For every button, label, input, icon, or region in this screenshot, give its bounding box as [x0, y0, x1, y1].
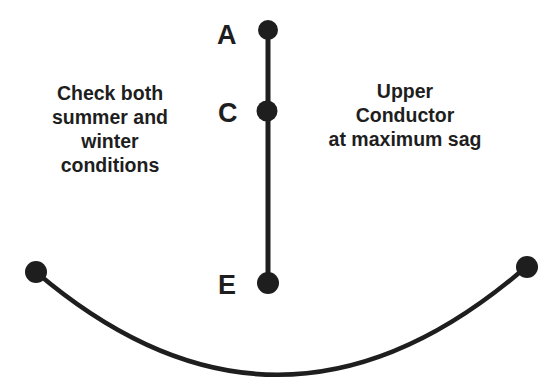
point-e-label: E: [218, 272, 236, 299]
left-note-line: Check both: [20, 81, 200, 105]
diagram-canvas: [0, 0, 558, 389]
right-note-line: Conductor: [300, 103, 510, 127]
point-c-dot: [257, 101, 278, 122]
left-note-line: winter: [20, 129, 200, 153]
point-a-dot: [258, 20, 278, 40]
left-note-line: summer and: [20, 105, 200, 129]
right-support-dot: [516, 256, 538, 278]
left-note-line: conditions: [20, 153, 200, 177]
point-a-label: A: [217, 22, 237, 49]
left-note: Check both summer and winter conditions: [20, 81, 200, 177]
right-note-line: at maximum sag: [300, 127, 510, 151]
right-note-line: Upper: [300, 79, 510, 103]
point-c-label: C: [218, 100, 238, 127]
right-note: Upper Conductor at maximum sag: [300, 79, 510, 151]
point-e-dot: [257, 272, 279, 294]
left-support-dot: [25, 261, 47, 283]
sagging-conductor-curve: [36, 267, 526, 375]
